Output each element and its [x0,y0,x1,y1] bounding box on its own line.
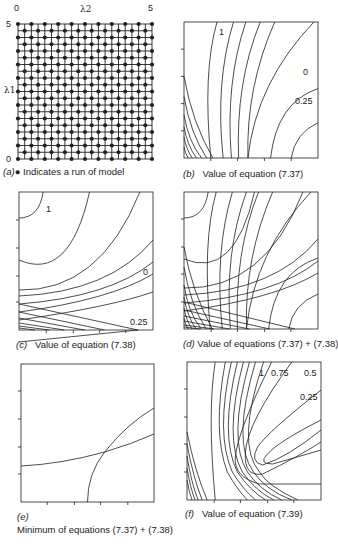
caption-letter: (b) [183,168,195,179]
caption-letter: (d) [183,338,195,349]
contour-label-0.75: 0.75 [271,368,289,378]
contour-label-1: 1 [46,204,51,214]
axis-ticks [18,391,128,505]
y-axis-label: λ1 [4,85,15,95]
caption-e: Minimum of equations (7.37) + (7.38) [17,524,173,535]
caption-a: (a)● Indicates a run of model [3,166,124,177]
caption-letter: (c) [16,339,27,350]
contour-label-0.25: 0.25 [295,96,313,106]
caption-text: ● Indicates a run of model [15,166,125,177]
contour-plot-d [184,192,318,329]
x-axis-max-label: 5 [148,3,153,13]
contour-plot-b [184,22,318,158]
caption-letter: (f) [185,508,194,519]
cropped-text-line [140,541,260,547]
panel-d: (d) Value of equations (7.37) + (7.38) [184,192,318,352]
caption-letter: (e) [17,511,29,522]
caption-e-letter: (e) [17,511,29,522]
minimum-plot-e [21,364,154,502]
contour-label-0.25: 0.25 [300,392,318,402]
contour-plot-f [187,362,321,500]
axis-ticks [16,220,126,333]
caption-b: (b) Value of equation (7.37) [183,168,303,179]
contour-label-0: 0 [143,267,148,277]
x-axis-min-label: 0 [14,3,19,13]
caption-text: Value of equation (7.39) [202,508,303,519]
caption-d: (d) Value of equations (7.37) + (7.38) [183,338,338,349]
caption-f: (f) Value of equation (7.39) [185,508,303,519]
contour-label-1: 1 [219,27,224,37]
caption-text: Value of equation (7.37) [203,168,304,179]
caption-c: (c) Value of equation (7.38) [16,339,136,350]
panel-c: 1 0 0.25 (c) Value of equation (7.38) [19,192,153,352]
contour-label-0: 0 [303,67,308,77]
caption-letter: (a) [3,166,15,177]
contour-label-0.25: 0.25 [130,317,148,327]
caption-text: Minimum of equations (7.37) + (7.38) [17,524,173,535]
panel-f: 1 0.75 0.5 0.25 (f) Value of equation (7… [187,362,321,522]
x-axis-label: λ2 [80,4,91,14]
axis-ticks [181,49,291,161]
caption-text: Value of equations (7.37) + (7.38) [197,338,338,349]
caption-text: Value of equation (7.38) [35,339,136,350]
panel-b: 1 0 0.25 (b) Value of equation (7.37) [184,22,318,182]
panel-e: (e) Minimum of equations (7.37) + (7.38) [21,364,154,544]
contour-label-1: 1 [259,368,264,378]
y-axis-min-label: 0 [6,154,11,164]
run-grid-plot [0,0,165,185]
contour-label-0.5: 0.5 [304,368,317,378]
panel-a: 0 λ2 5 5 λ1 0 (a)● Indicates a run of mo… [0,0,165,185]
contour-plot-c [19,192,153,330]
y-axis-max-label: 5 [6,19,11,29]
